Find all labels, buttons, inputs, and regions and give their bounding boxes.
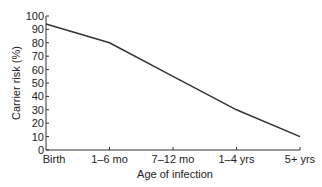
y-tick-label: 20 (32, 117, 44, 129)
y-tick-label: 50 (32, 77, 44, 89)
x-tick-label: 5+ yrs (285, 153, 316, 165)
y-axis-label: Carrier risk (%) (10, 46, 22, 120)
x-tick-label: 7–12 mo (152, 153, 195, 165)
x-tick-label: 1–4 yrs (218, 153, 255, 165)
y-tick-label: 10 (32, 131, 44, 143)
x-tick-label: Birth (43, 153, 66, 165)
y-tick-label: 90 (32, 23, 44, 35)
y-tick-label: 100 (26, 10, 44, 22)
y-tick-label: 40 (32, 90, 44, 102)
y-tick-label: 70 (32, 50, 44, 62)
y-tick-label: 30 (32, 104, 44, 116)
y-tick-label: 60 (32, 64, 44, 76)
carrier-risk-line (46, 24, 300, 137)
y-axis-ticks: 0102030405060708090100 (26, 10, 49, 156)
line-chart: 0102030405060708090100 Birth1–6 mo7–12 m… (0, 0, 322, 187)
x-axis-label: Age of infection (137, 168, 213, 180)
x-tick-label: 1–6 mo (91, 153, 128, 165)
y-tick-label: 80 (32, 37, 44, 49)
